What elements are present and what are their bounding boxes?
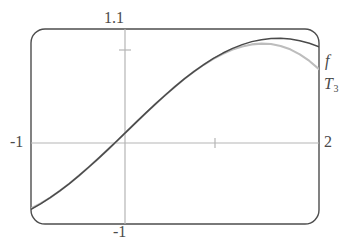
y-min-label: -1 xyxy=(113,224,126,240)
curve-t3 xyxy=(31,44,319,209)
curve-t3-label-subscript: 3 xyxy=(333,83,338,94)
y-max-label: 1.1 xyxy=(104,10,124,26)
curve-t3-label: T3 xyxy=(324,76,338,94)
x-min-label: -1 xyxy=(10,134,23,150)
taylor-approximation-figure: 1.1 -1 2 -1 f T3 xyxy=(0,0,349,252)
curve-t3-label-base: T xyxy=(324,75,333,92)
plot-canvas xyxy=(0,0,349,252)
curve-f-label: f xyxy=(325,53,329,69)
plot-frame xyxy=(31,29,319,224)
curve-f xyxy=(31,38,319,209)
x-max-label: 2 xyxy=(324,134,332,150)
